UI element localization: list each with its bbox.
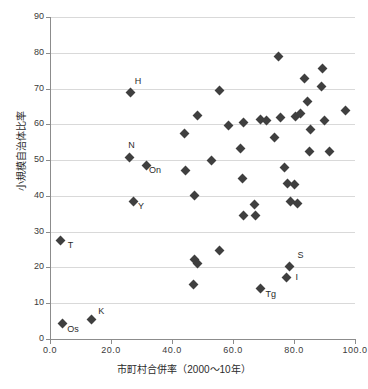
x-axis-line bbox=[50, 339, 356, 340]
data-point-label: T bbox=[68, 241, 74, 250]
data-point[interactable] bbox=[239, 211, 249, 221]
y-tick bbox=[46, 89, 50, 90]
x-tick bbox=[50, 340, 51, 344]
y-tick-label: 30 bbox=[18, 227, 44, 236]
y-tick-label: 80 bbox=[18, 48, 44, 57]
y-tick bbox=[46, 53, 50, 54]
y-tick-label: 70 bbox=[18, 84, 44, 93]
data-point[interactable] bbox=[255, 284, 265, 294]
y-tick-label-wrap: 80 bbox=[0, 48, 44, 57]
data-point[interactable] bbox=[324, 147, 334, 157]
gridline-y bbox=[50, 267, 355, 268]
y-tick-label-wrap: 50 bbox=[0, 155, 44, 164]
y-tick-label-wrap: 30 bbox=[0, 227, 44, 236]
data-point-label: I bbox=[295, 273, 298, 282]
data-point[interactable] bbox=[284, 261, 294, 271]
x-tick bbox=[294, 340, 295, 344]
y-tick-label-wrap: 90 bbox=[0, 12, 44, 21]
data-point[interactable] bbox=[223, 120, 233, 130]
data-point[interactable] bbox=[269, 132, 279, 142]
y-tick-label: 0 bbox=[18, 334, 44, 343]
y-tick-label: 10 bbox=[18, 298, 44, 307]
data-point[interactable] bbox=[251, 211, 261, 221]
gridline-y bbox=[50, 160, 355, 161]
y-tick bbox=[46, 17, 50, 18]
y-tick bbox=[46, 232, 50, 233]
data-point-label: N bbox=[128, 141, 135, 150]
data-point[interactable] bbox=[236, 143, 246, 153]
gridline-y bbox=[50, 303, 355, 304]
scatter-chart: OsKTHNOnYSITg 小規模自治体比率 市町村合併率（2000〜10年） … bbox=[0, 0, 368, 389]
gridline-y bbox=[50, 232, 355, 233]
data-point[interactable] bbox=[181, 166, 191, 176]
data-point[interactable] bbox=[193, 110, 203, 120]
y-tick-label-wrap: 70 bbox=[0, 84, 44, 93]
y-tick-label-wrap: 0 bbox=[0, 334, 44, 343]
data-point[interactable] bbox=[275, 113, 285, 123]
data-point[interactable] bbox=[190, 190, 200, 200]
y-tick-label: 90 bbox=[18, 12, 44, 21]
y-tick-label: 50 bbox=[18, 155, 44, 164]
gridline-y bbox=[50, 53, 355, 54]
data-point[interactable] bbox=[214, 246, 224, 256]
y-axis-line bbox=[50, 17, 51, 340]
data-point-label: On bbox=[149, 166, 161, 175]
gridline-y bbox=[50, 17, 355, 18]
data-point[interactable] bbox=[318, 64, 328, 74]
data-point[interactable] bbox=[86, 315, 96, 325]
y-tick bbox=[46, 303, 50, 304]
data-point[interactable] bbox=[306, 124, 316, 134]
y-tick-label-wrap: 10 bbox=[0, 298, 44, 307]
y-tick bbox=[46, 160, 50, 161]
x-tick-label: 60.0 bbox=[210, 345, 256, 355]
x-tick bbox=[233, 340, 234, 344]
data-point[interactable] bbox=[304, 147, 314, 157]
data-point[interactable] bbox=[179, 129, 189, 139]
y-tick bbox=[46, 124, 50, 125]
y-tick-label-wrap: 40 bbox=[0, 191, 44, 200]
x-tick-label: 40.0 bbox=[149, 345, 195, 355]
data-point[interactable] bbox=[341, 105, 351, 115]
x-tick bbox=[172, 340, 173, 344]
x-tick-label: 20.0 bbox=[88, 345, 134, 355]
data-point-label: Y bbox=[138, 202, 144, 211]
data-point[interactable] bbox=[214, 85, 224, 95]
data-point-label: S bbox=[297, 251, 303, 260]
x-tick bbox=[355, 340, 356, 344]
data-point-label: Os bbox=[67, 325, 79, 334]
data-point-label: Tg bbox=[265, 290, 276, 299]
y-tick-label-wrap: 20 bbox=[0, 262, 44, 271]
data-point-label: H bbox=[135, 77, 142, 86]
x-tick-label: 100.0 bbox=[332, 345, 368, 355]
y-tick-label: 60 bbox=[18, 119, 44, 128]
y-tick-label: 20 bbox=[18, 262, 44, 271]
y-tick bbox=[46, 196, 50, 197]
x-tick-label: 80.0 bbox=[271, 345, 317, 355]
x-axis-title: 市町村合併率（2000〜10年） bbox=[0, 364, 368, 376]
data-point[interactable] bbox=[281, 272, 291, 282]
data-point[interactable] bbox=[300, 74, 310, 84]
data-point[interactable] bbox=[237, 174, 247, 184]
data-point[interactable] bbox=[303, 96, 313, 106]
data-point[interactable] bbox=[207, 155, 217, 165]
y-tick-label: 40 bbox=[18, 191, 44, 200]
x-tick-label: 0.0 bbox=[27, 345, 73, 355]
data-point[interactable] bbox=[57, 319, 67, 329]
plot-area: OsKTHNOnYSITg bbox=[50, 17, 355, 339]
data-point[interactable] bbox=[56, 236, 66, 246]
y-tick-label-wrap: 60 bbox=[0, 119, 44, 128]
data-point[interactable] bbox=[249, 200, 259, 210]
data-point[interactable] bbox=[280, 163, 290, 173]
gridline-y bbox=[50, 196, 355, 197]
data-point-label: K bbox=[98, 307, 104, 316]
data-point[interactable] bbox=[188, 280, 198, 290]
data-point[interactable] bbox=[239, 118, 249, 128]
data-point[interactable] bbox=[316, 82, 326, 92]
x-tick bbox=[111, 340, 112, 344]
y-axis-title: 小規模自治体比率 bbox=[16, 81, 28, 221]
y-tick bbox=[46, 267, 50, 268]
gridline-y bbox=[50, 89, 355, 90]
